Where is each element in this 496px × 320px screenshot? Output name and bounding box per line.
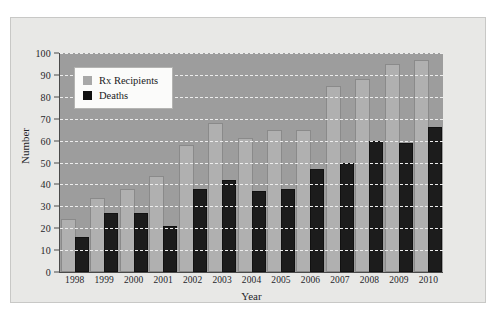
- y-tick-label-70: 70: [41, 113, 51, 124]
- x-tick-label-2010: 2010: [414, 275, 443, 285]
- y-tick-mark-80: [54, 96, 59, 97]
- y-tick-mark-20: [54, 228, 59, 229]
- bar-rx-recipients-2003: [208, 123, 223, 272]
- bar-rx-recipients-2005: [267, 130, 282, 272]
- bar-deaths-2000: [134, 213, 148, 272]
- y-tick-label-40: 40: [41, 179, 51, 190]
- legend-label-deaths: Deaths: [99, 90, 128, 101]
- bar-deaths-2006: [310, 169, 324, 272]
- bar-group-2003: [207, 53, 236, 272]
- legend-swatch-rx: [83, 76, 92, 85]
- x-axis-title: Year: [60, 290, 443, 302]
- y-tick-mark-100: [54, 53, 59, 54]
- x-axis-line: [59, 272, 443, 273]
- bar-group-2004: [237, 53, 266, 272]
- bar-group-2010: [414, 53, 443, 272]
- bar-group-2009: [384, 53, 413, 272]
- x-tick-label-2004: 2004: [237, 275, 266, 285]
- bar-deaths-1999: [104, 213, 118, 272]
- bar-rx-recipients-2000: [120, 189, 135, 272]
- bar-rx-recipients-2007: [326, 86, 341, 272]
- bar-deaths-2003: [222, 180, 236, 272]
- bar-group-2002: [178, 53, 207, 272]
- y-tick-label-10: 10: [41, 245, 51, 256]
- legend-entry-deaths: Deaths: [83, 88, 158, 103]
- x-tick-label-1998: 1998: [60, 275, 89, 285]
- bar-rx-recipients-2006: [296, 130, 311, 272]
- x-tick-label-2007: 2007: [325, 275, 354, 285]
- bar-rx-recipients-1998: [61, 219, 76, 272]
- x-tick-label-2009: 2009: [384, 275, 413, 285]
- x-tick-label-2005: 2005: [266, 275, 295, 285]
- y-tick-mark-30: [54, 206, 59, 207]
- bar-rx-recipients-2004: [238, 138, 253, 272]
- y-tick-mark-40: [54, 184, 59, 185]
- y-axis-line: [59, 53, 60, 273]
- bar-rx-recipients-2002: [179, 145, 194, 272]
- x-tick-label-2002: 2002: [178, 275, 207, 285]
- chart-legend: Rx RecipientsDeaths: [74, 67, 173, 109]
- bar-deaths-2007: [340, 163, 354, 273]
- bar-deaths-2002: [193, 189, 207, 272]
- x-axis-ticks: 1998199920002001200220032004200520062007…: [60, 275, 443, 285]
- y-tick-mark-50: [54, 162, 59, 163]
- y-tick-mark-0: [54, 272, 59, 273]
- y-tick-mark-70: [54, 118, 59, 119]
- y-tick-label-0: 0: [46, 267, 51, 278]
- x-tick-label-1999: 1999: [89, 275, 118, 285]
- bar-rx-recipients-2008: [355, 79, 370, 272]
- bar-deaths-2001: [163, 226, 177, 272]
- y-tick-label-20: 20: [41, 223, 51, 234]
- y-tick-label-60: 60: [41, 135, 51, 146]
- y-axis-ticks: 0102030405060708090100: [11, 53, 59, 272]
- x-tick-label-2006: 2006: [296, 275, 325, 285]
- legend-label-rx: Rx Recipients: [99, 75, 158, 86]
- bar-deaths-2008: [369, 141, 383, 272]
- chart-figure: 0102030405060708090100 19981999200020012…: [10, 17, 486, 303]
- bar-deaths-1998: [75, 237, 89, 272]
- bar-rx-recipients-1999: [90, 198, 105, 272]
- x-tick-label-2000: 2000: [119, 275, 148, 285]
- bar-deaths-2004: [252, 191, 266, 272]
- bar-deaths-2005: [281, 189, 295, 272]
- bar-group-2007: [325, 53, 354, 272]
- bar-rx-recipients-2001: [149, 176, 164, 272]
- x-tick-label-2001: 2001: [148, 275, 177, 285]
- bar-group-2008: [355, 53, 384, 272]
- y-tick-mark-60: [54, 140, 59, 141]
- y-tick-label-100: 100: [35, 48, 51, 59]
- y-tick-mark-10: [54, 250, 59, 251]
- x-tick-label-2008: 2008: [355, 275, 384, 285]
- bar-deaths-2009: [399, 143, 413, 272]
- y-tick-label-30: 30: [41, 201, 51, 212]
- y-tick-label-90: 90: [41, 69, 51, 80]
- y-tick-label-80: 80: [41, 91, 51, 102]
- bar-rx-recipients-2010: [414, 60, 429, 272]
- bar-rx-recipients-2009: [385, 64, 400, 272]
- legend-swatch-deaths: [83, 91, 92, 100]
- bar-group-2006: [296, 53, 325, 272]
- bar-group-2005: [266, 53, 295, 272]
- legend-entry-rx: Rx Recipients: [83, 73, 158, 88]
- x-tick-label-2003: 2003: [207, 275, 236, 285]
- bar-deaths-2010: [428, 127, 442, 272]
- y-tick-mark-90: [54, 74, 59, 75]
- y-tick-label-50: 50: [41, 157, 51, 168]
